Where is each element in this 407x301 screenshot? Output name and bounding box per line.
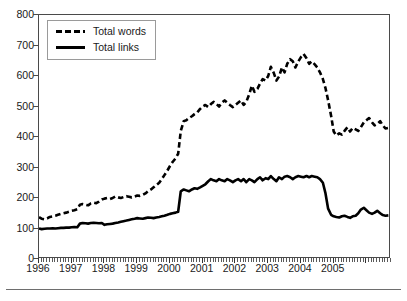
y-tick-label: 100 [4, 223, 34, 233]
y-tick-label: 200 [4, 192, 34, 202]
y-axis: 0100200300400500600700800 [0, 0, 34, 301]
chart-figure: 0100200300400500600700800 19961997199819… [0, 0, 407, 301]
x-tick-label: 2005 [313, 262, 353, 274]
x-axis: 1996199719981999200020012002200320042005 [0, 262, 407, 280]
legend-item-total-words: Total words [56, 25, 146, 38]
series-line-total-words [39, 54, 388, 219]
solid-line-icon [56, 42, 85, 53]
y-tick-label: 500 [4, 101, 34, 111]
legend-label-total-links: Total links [93, 42, 139, 53]
series-line-total-links [39, 176, 388, 229]
y-tick-label: 800 [4, 9, 34, 19]
footer-rule [6, 289, 401, 290]
dashed-line-icon [56, 26, 85, 37]
legend-label-total-words: Total words [93, 26, 146, 37]
legend-item-total-links: Total links [56, 41, 146, 54]
y-tick-label: 400 [4, 131, 34, 141]
y-tick-label: 700 [4, 40, 34, 50]
y-tick-label: 600 [4, 70, 34, 80]
chart-legend: Total words Total links [47, 20, 156, 60]
y-tick-label: 300 [4, 162, 34, 172]
